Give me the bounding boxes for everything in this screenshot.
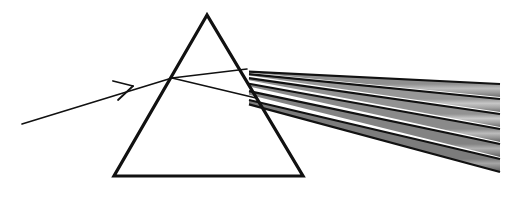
prism-dispersion-figure: White light dispersion through a triangu… <box>0 0 514 207</box>
prism-dispersion-svg: White light dispersion through a triangu… <box>0 0 514 207</box>
